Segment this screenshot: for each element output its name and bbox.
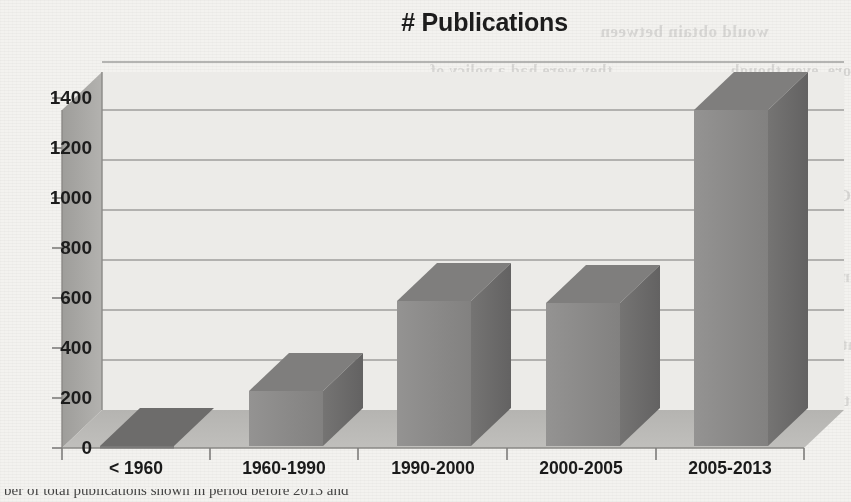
x-tick-label: 2000-2005: [539, 458, 623, 479]
chart-3d-scene: [0, 0, 851, 502]
y-tick-label: 400: [16, 337, 92, 359]
y-tick-label: 0: [16, 437, 92, 459]
y-tick-label: 800: [16, 237, 92, 259]
bar-2005-2013: [694, 72, 808, 446]
x-tick-label: 2005-2013: [688, 458, 772, 479]
y-tick-label: 200: [16, 387, 92, 409]
bar-2000-2005: [546, 265, 660, 446]
y-tick-label: 1400: [16, 87, 92, 109]
bar-1990-2000: [397, 263, 511, 446]
x-tick-label: 1990-2000: [391, 458, 475, 479]
x-tick-label: 1960-1990: [242, 458, 326, 479]
publications-bar-chart: # Publications: [0, 0, 851, 502]
y-tick-label: 1000: [16, 187, 92, 209]
plot-area: 1400 1200 1000 800 600 400 200 0 < 1960 …: [0, 0, 851, 502]
y-tick-label: 1200: [16, 137, 92, 159]
x-tick-label: < 1960: [109, 458, 163, 479]
y-tick-label: 600: [16, 287, 92, 309]
y-axis-labels: 1400 1200 1000 800 600 400 200 0: [4, 0, 92, 502]
